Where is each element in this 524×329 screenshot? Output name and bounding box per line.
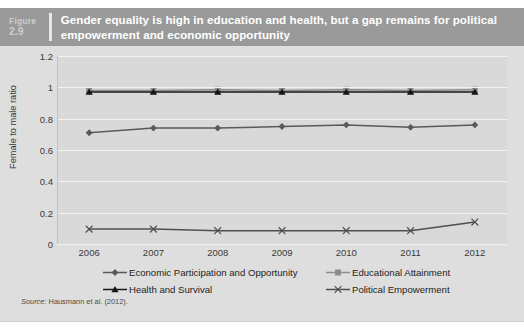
y-tick-label: 0 xyxy=(19,239,53,250)
series-triangle xyxy=(86,88,479,94)
figure-number-block: Figure 2.9 xyxy=(0,17,49,38)
chart-panel: 00.20.40.60.811.2 Female to male ratio 2… xyxy=(0,46,524,321)
data-point-diamond xyxy=(112,269,119,276)
legend-item[interactable]: Economic Participation and Opportunity xyxy=(102,267,298,278)
legend-marker-diamond-icon xyxy=(102,267,128,278)
gridline xyxy=(57,56,507,57)
x-axis-ticks: 2006200720082009201020112012 xyxy=(57,247,507,263)
data-point-diamond xyxy=(407,124,414,131)
y-tick-label: 0.2 xyxy=(19,207,53,218)
y-tick-label: 0.8 xyxy=(19,113,53,124)
figure-number: 2.9 xyxy=(9,26,49,37)
gridline xyxy=(57,119,507,120)
data-point-diamond xyxy=(471,122,478,129)
x-tick-label: 2011 xyxy=(400,247,420,258)
legend-item[interactable]: Political Empowerment xyxy=(325,284,450,295)
y-axis-line xyxy=(57,56,58,244)
legend-label: Educational Attainment xyxy=(352,267,450,278)
legend-item[interactable]: Health and Survival xyxy=(102,284,212,295)
series-diamond xyxy=(86,122,479,137)
source-text: Hausmann et al. (2012). xyxy=(46,297,127,306)
legend-label: Health and Survival xyxy=(129,284,212,295)
legend-label: Political Empowerment xyxy=(352,284,450,295)
data-point-diamond xyxy=(214,125,221,132)
gridline xyxy=(57,181,507,182)
data-point-diamond xyxy=(86,129,93,136)
y-tick-label: 0.4 xyxy=(19,176,53,187)
data-point-diamond xyxy=(343,122,350,129)
gridline xyxy=(57,244,507,245)
title-divider xyxy=(49,13,52,41)
legend-item[interactable]: Educational Attainment xyxy=(325,267,450,278)
gridline xyxy=(57,213,507,214)
gridline xyxy=(57,87,507,88)
y-axis-ticks: 00.20.40.60.811.2 xyxy=(15,56,53,244)
legend-marker-triangle-icon xyxy=(102,284,128,295)
x-tick-label: 2010 xyxy=(336,247,357,258)
series-line xyxy=(89,222,475,231)
y-tick-label: 0.6 xyxy=(19,145,53,156)
source-note: Source: Hausmann et al. (2012). xyxy=(21,297,128,306)
data-point-square xyxy=(335,270,341,276)
figure-title-bar: Figure 2.9 Gender equality is high in ed… xyxy=(0,8,524,46)
legend-label: Economic Participation and Opportunity xyxy=(129,267,298,278)
figure-title: Gender equality is high in education and… xyxy=(61,12,524,42)
x-tick-label: 2007 xyxy=(143,247,164,258)
x-tick-label: 2009 xyxy=(271,247,292,258)
y-axis-title: Female to male ratio xyxy=(8,67,18,187)
source-label: Source: xyxy=(21,297,46,306)
plot-area xyxy=(57,56,507,244)
legend-marker-x-icon xyxy=(325,284,351,295)
gridline xyxy=(57,150,507,151)
x-tick-label: 2008 xyxy=(207,247,228,258)
x-tick-label: 2012 xyxy=(464,247,485,258)
y-tick-label: 1.2 xyxy=(19,51,53,62)
legend-marker-square-icon xyxy=(325,267,351,278)
figure-container: Figure 2.9 Gender equality is high in ed… xyxy=(0,0,524,329)
bottom-rule xyxy=(0,321,524,322)
data-point-diamond xyxy=(279,123,286,130)
data-point-diamond xyxy=(150,125,157,132)
x-tick-label: 2006 xyxy=(79,247,100,258)
y-tick-label: 1 xyxy=(19,82,53,93)
series-x xyxy=(86,219,479,234)
